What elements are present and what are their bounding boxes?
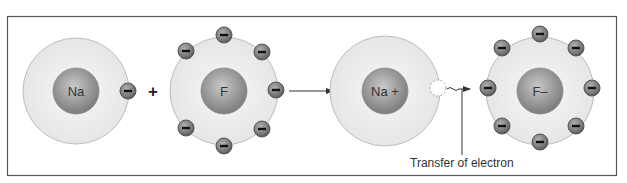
electron-icon xyxy=(268,82,284,98)
electron-icon xyxy=(178,43,194,59)
fluoride-ion: F– xyxy=(480,26,600,150)
electron-icon xyxy=(532,26,548,42)
fluorine-label: F xyxy=(220,84,228,99)
electron-icon xyxy=(254,121,270,137)
electron-icon xyxy=(584,80,600,96)
electron-icon xyxy=(568,40,584,56)
electron-icon xyxy=(254,44,270,60)
vacated-electron-position xyxy=(430,80,446,96)
electron-icon xyxy=(216,27,232,43)
electron-icon xyxy=(494,40,510,56)
ionic-bonding-diagram: Na + F Na + F– xyxy=(0,0,627,183)
fluorine-atom: F xyxy=(170,27,284,154)
electron-icon xyxy=(216,138,232,154)
electron-icon xyxy=(120,83,136,99)
fluoride-ion-label: F– xyxy=(532,84,548,99)
electron-icon xyxy=(494,118,510,134)
electron-icon xyxy=(568,118,584,134)
electron-icon xyxy=(178,120,194,136)
electron-icon xyxy=(532,134,548,150)
sodium-ion-label: Na + xyxy=(371,84,399,99)
sodium-ion: Na + xyxy=(330,36,440,146)
plus-sign: + xyxy=(148,82,158,101)
transfer-annotation: Transfer of electron xyxy=(410,156,514,170)
sodium-label: Na xyxy=(68,84,85,99)
electron-icon xyxy=(480,80,496,96)
